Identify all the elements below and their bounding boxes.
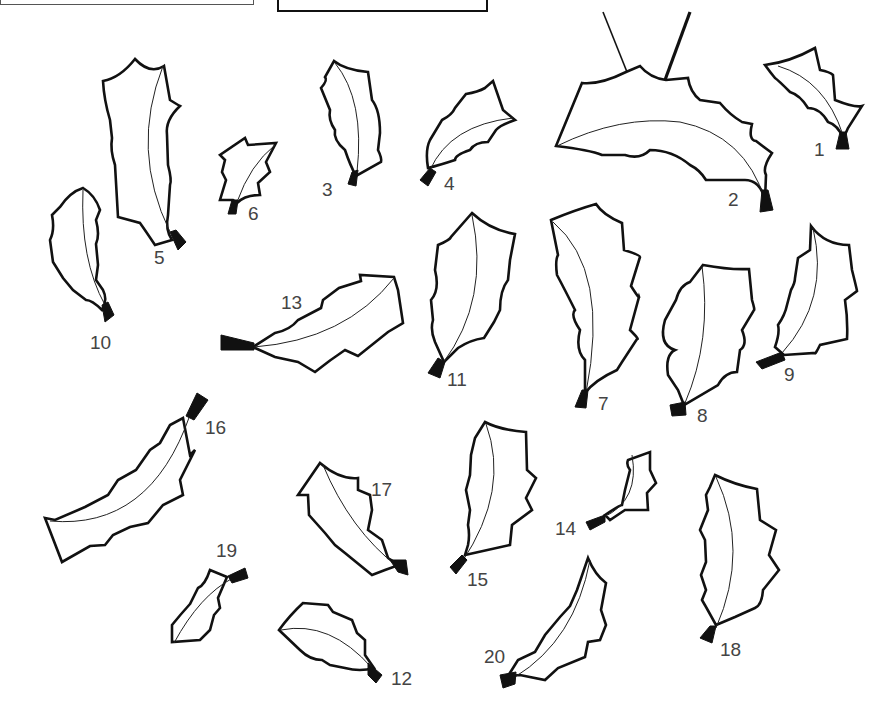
holly-leaf-12[interactable] (279, 603, 382, 683)
holly-leaf-10[interactable] (50, 188, 114, 322)
leaf-label-18: 18 (720, 640, 741, 659)
holly-leaf-16[interactable] (45, 393, 208, 562)
holly-leaf-18[interactable] (700, 475, 779, 643)
leaf-label-4: 4 (444, 174, 455, 193)
leaf-label-16: 16 (205, 418, 226, 437)
leaf-label-19: 19 (216, 541, 237, 560)
leaf-label-9: 9 (784, 365, 795, 384)
holly-leaf-5[interactable] (103, 59, 186, 250)
leaf-label-8: 8 (697, 406, 708, 425)
holly-leaf-11[interactable] (428, 213, 515, 378)
holly-leaf-15[interactable] (450, 422, 536, 574)
leaf-label-7: 7 (598, 394, 609, 413)
holly-leaves-canvas (0, 0, 887, 721)
holly-leaf-1[interactable] (765, 48, 862, 149)
holly-leaf-2[interactable] (556, 66, 773, 212)
leaf-label-6: 6 (248, 204, 259, 223)
leaf-label-13: 13 (281, 293, 302, 312)
leaf-label-15: 15 (467, 570, 488, 589)
leaf-label-11: 11 (447, 370, 467, 389)
leaf-label-17: 17 (371, 480, 392, 499)
holly-leaf-9[interactable] (756, 226, 857, 369)
holly-leaf-19[interactable] (172, 568, 248, 643)
leaf-label-3: 3 (322, 180, 333, 199)
holly-leaf-4[interactable] (420, 81, 515, 186)
sign-string-left (603, 12, 627, 72)
holly-leaf-14[interactable] (586, 452, 656, 530)
leaf-label-1: 1 (814, 140, 825, 159)
leaf-label-10: 10 (90, 333, 111, 352)
holly-leaf-20[interactable] (500, 558, 606, 688)
leaf-label-14: 14 (555, 519, 576, 538)
leaf-label-2: 2 (728, 190, 739, 209)
leaf-label-20: 20 (484, 647, 505, 666)
holly-leaf-7[interactable] (551, 204, 640, 408)
leaf-label-12: 12 (391, 669, 412, 688)
holly-leaf-3[interactable] (321, 61, 381, 186)
holly-leaf-13[interactable] (221, 275, 403, 372)
leaf-label-5: 5 (154, 248, 165, 267)
sign-string-right (665, 12, 690, 80)
holly-leaf-8[interactable] (663, 265, 754, 416)
